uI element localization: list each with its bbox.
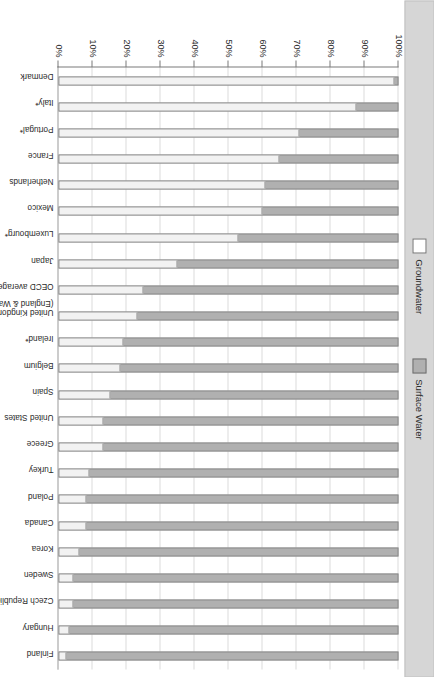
plot-outer: 0%10%20%30%40%50%60%70%80%90%100% Denmar… <box>57 0 398 677</box>
category-label: Poland <box>28 490 54 499</box>
stacked-bar[interactable] <box>58 416 398 425</box>
bar-segment-groundwater <box>59 364 120 371</box>
bar-segment-groundwater <box>59 77 394 84</box>
bar-slot <box>58 303 398 329</box>
bar-slot <box>58 329 398 355</box>
bar-slot <box>58 512 398 538</box>
bar-slot <box>58 407 398 433</box>
category-label: Spain <box>32 385 53 394</box>
bar-segment-groundwater <box>59 155 279 162</box>
stacked-bar[interactable] <box>58 102 398 111</box>
stacked-bar[interactable] <box>58 206 398 215</box>
stacked-bar[interactable] <box>58 547 398 556</box>
bar-slot <box>58 198 398 224</box>
stacked-bar[interactable] <box>58 311 398 320</box>
y-axis-tick <box>329 60 330 67</box>
category-slot: Poland <box>0 486 57 512</box>
bar-segment-groundwater <box>59 234 238 241</box>
category-slot: Mexico <box>0 197 57 223</box>
bar-segment-groundwater <box>59 260 177 267</box>
category-slot: Turkey <box>0 459 57 485</box>
bar-segment-groundwater <box>59 652 66 659</box>
category-slot: Italy* <box>0 92 57 118</box>
category-label: Denmark <box>20 71 53 80</box>
category-label: Korea <box>31 542 53 551</box>
bar-slot <box>58 172 398 198</box>
bar-slot <box>58 538 398 564</box>
stacked-bar[interactable] <box>58 468 398 477</box>
y-axis-tick-label: 30% <box>155 39 165 57</box>
stacked-bar[interactable] <box>58 259 398 268</box>
y-axis-tick <box>159 60 160 67</box>
bar-segment-groundwater <box>59 181 265 188</box>
bar-slot <box>58 643 398 669</box>
bar-segment-groundwater <box>59 626 69 633</box>
category-slot: Finland <box>0 643 57 669</box>
bar-slot <box>58 617 398 643</box>
category-label: Finland <box>26 647 53 656</box>
y-axis-tick-label: 0% <box>53 44 63 57</box>
bar-segment-groundwater <box>59 548 79 555</box>
stacked-bar[interactable] <box>58 390 398 399</box>
y-axis-tick <box>261 60 262 67</box>
y-axis-tick <box>91 60 92 67</box>
bar-slot <box>58 250 398 276</box>
stacked-bar[interactable] <box>58 651 398 660</box>
stacked-bar[interactable] <box>58 521 398 530</box>
category-label: Japan <box>31 254 53 263</box>
stacked-bar[interactable] <box>58 494 398 503</box>
stacked-bar[interactable] <box>58 599 398 608</box>
stacked-bar[interactable] <box>58 573 398 582</box>
category-slot: Belgium <box>0 354 57 380</box>
stacked-bar[interactable] <box>58 442 398 451</box>
y-axis-tick-label: 20% <box>121 39 131 57</box>
stacked-bar[interactable] <box>58 180 398 189</box>
category-slot: Sweden <box>0 564 57 590</box>
stacked-bar[interactable] <box>58 625 398 634</box>
legend-label-surface-water: Surface Water <box>414 379 425 439</box>
category-slot: Portugal* <box>0 118 57 144</box>
y-axis-tick-label: 80% <box>325 39 335 57</box>
category-slot: Canada <box>0 512 57 538</box>
category-label: OECD average <box>0 280 53 289</box>
stacked-bar[interactable] <box>58 154 398 163</box>
bar-segment-groundwater <box>59 129 299 136</box>
bar-segment-groundwater <box>59 417 103 424</box>
stacked-bar[interactable] <box>58 337 398 346</box>
category-axis-labels: DenmarkItaly*Portugal*FranceNetherlandsM… <box>0 66 57 669</box>
bar-segment-groundwater <box>59 391 110 398</box>
category-slot: United Kingdom (England & Wales) <box>0 302 57 328</box>
y-axis-tick-label: 100% <box>393 34 403 57</box>
bar-segment-groundwater <box>59 469 89 476</box>
stacked-bar-chart: Groundwater Surface Water 0%10%20%30%40%… <box>0 0 434 677</box>
bar-segment-groundwater <box>59 103 356 110</box>
bar-slot <box>58 381 398 407</box>
bar-group <box>58 67 398 669</box>
category-label: Italy* <box>35 97 53 106</box>
stacked-bar[interactable] <box>58 285 398 294</box>
bar-slot <box>58 433 398 459</box>
chart-legend: Groundwater Surface Water <box>404 0 434 677</box>
y-axis-tick-label: 60% <box>257 39 267 57</box>
stacked-bar[interactable] <box>58 233 398 242</box>
bar-segment-groundwater <box>59 207 262 214</box>
stacked-bar[interactable] <box>58 76 398 85</box>
category-slot: Denmark <box>0 66 57 92</box>
stacked-bar[interactable] <box>58 128 398 137</box>
legend-item-surface-water: Surface Water <box>412 358 426 439</box>
category-slot: France <box>0 145 57 171</box>
category-label: Portugal* <box>19 123 53 132</box>
legend-swatch-white-icon <box>412 238 426 253</box>
legend-label-groundwater: Groundwater <box>414 259 425 314</box>
stacked-bar[interactable] <box>58 363 398 372</box>
bar-slot <box>58 276 398 302</box>
y-axis-tick <box>193 60 194 67</box>
category-label: Czech Republic <box>0 595 53 604</box>
chart-rotation-wrapper: Groundwater Surface Water 0%10%20%30%40%… <box>0 0 434 677</box>
category-label: Belgium <box>23 359 53 368</box>
y-axis-tick <box>363 60 364 67</box>
y-axis-tick-label: 90% <box>359 39 369 57</box>
category-slot: Ireland* <box>0 328 57 354</box>
category-label: United States <box>4 411 53 420</box>
bar-segment-groundwater <box>59 443 103 450</box>
